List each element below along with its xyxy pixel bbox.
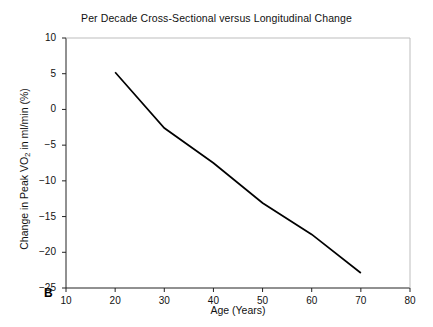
- x-tick-label: 70: [347, 295, 375, 306]
- x-tick-label: 10: [52, 295, 80, 306]
- y-axis-label-pre: Change in Peak VO: [18, 157, 30, 250]
- y-tick-label: −20: [28, 246, 56, 257]
- x-tick-label: 80: [396, 295, 424, 306]
- series-line-0: [115, 72, 361, 273]
- x-tick-label: 50: [249, 295, 277, 306]
- x-tick-label: 40: [199, 295, 227, 306]
- series-lines: [115, 72, 361, 273]
- y-axis-label-subscript: 2: [23, 152, 32, 156]
- y-tick-label: 10: [28, 32, 56, 43]
- x-tick-label: 60: [298, 295, 326, 306]
- y-tick-label: −5: [28, 139, 56, 150]
- x-tick-label: 20: [101, 295, 129, 306]
- x-tick-label: 30: [150, 295, 178, 306]
- y-tick-label: 5: [28, 68, 56, 79]
- y-tick-label: 0: [28, 103, 56, 114]
- figure-panel-b: Per Decade Cross-Sectional versus Longit…: [0, 0, 433, 327]
- y-tick-label: −10: [28, 175, 56, 186]
- plot-area: [0, 0, 433, 327]
- y-tick-label: −25: [28, 282, 56, 293]
- y-tick-label: −15: [28, 211, 56, 222]
